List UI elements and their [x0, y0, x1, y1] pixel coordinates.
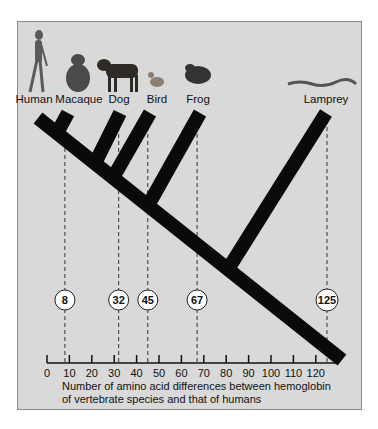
branch-frog [148, 113, 200, 206]
x-axis-tick-label: 120 [307, 367, 325, 379]
difference-badge-value: 8 [62, 294, 68, 306]
x-axis-tick-label: 90 [242, 367, 254, 379]
human-icon [30, 30, 47, 92]
species-label-dog: Dog [108, 93, 129, 105]
branch-lamprey [228, 113, 326, 269]
x-axis-tick-label: 70 [198, 367, 210, 379]
phylogenetic-tree: HumanMacaqueDogBirdFrogLamprey 832456712… [0, 0, 378, 429]
x-axis-tick-label: 40 [130, 367, 142, 379]
difference-badge-value: 125 [318, 294, 336, 306]
difference-badge-value: 67 [191, 294, 203, 306]
x-axis-tick-label: 50 [153, 367, 165, 379]
lamprey-icon [288, 79, 356, 85]
x-axis-tick-label: 100 [262, 367, 280, 379]
x-axis-tick-label: 20 [86, 367, 98, 379]
species-label-macaque: Macaque [55, 93, 102, 105]
x-axis-tick-label: 0 [44, 367, 50, 379]
dog-icon [97, 59, 138, 92]
difference-badge-value: 32 [113, 294, 125, 306]
bird-icon [148, 72, 164, 87]
macaque-icon [66, 54, 90, 92]
x-axis-tick-label: 110 [285, 367, 303, 379]
species-label-frog: Frog [186, 93, 210, 105]
x-axis-tick-label: 10 [63, 367, 75, 379]
axis-caption-line1: Number of amino acid differences between… [62, 380, 331, 392]
branch-dog [95, 113, 120, 163]
difference-badge-value: 45 [142, 294, 154, 306]
species-label-lamprey: Lamprey [304, 93, 349, 105]
x-axis-tick-label: 80 [220, 367, 232, 379]
axis-caption-line2: of vertebrate species and that of humans [62, 393, 262, 405]
species-label-bird: Bird [147, 93, 167, 105]
x-axis-tick-label: 60 [175, 367, 187, 379]
branch-macaque [57, 113, 68, 133]
species-label-human: Human [15, 93, 52, 105]
frog-icon [185, 64, 211, 84]
x-axis-tick-label: 30 [108, 367, 120, 379]
